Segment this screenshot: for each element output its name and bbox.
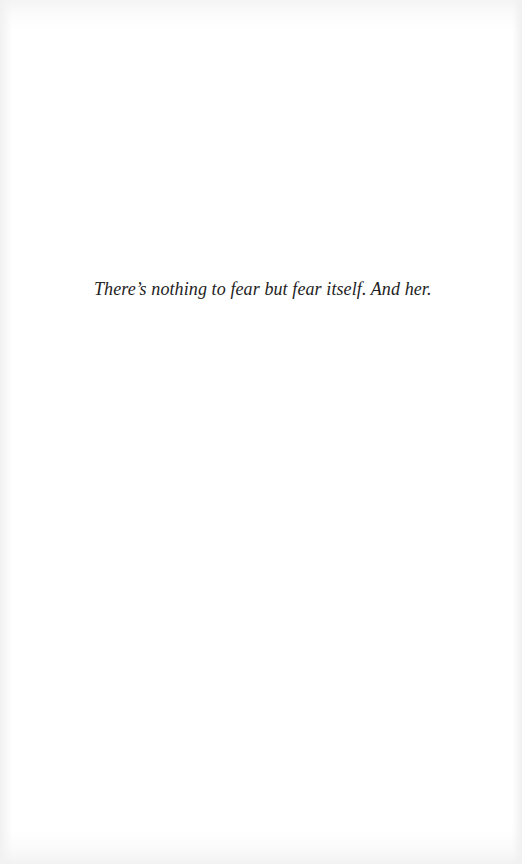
epigraph-text: There’s nothing to fear but fear itself.… (94, 279, 432, 300)
book-page: There’s nothing to fear but fear itself.… (0, 0, 522, 864)
